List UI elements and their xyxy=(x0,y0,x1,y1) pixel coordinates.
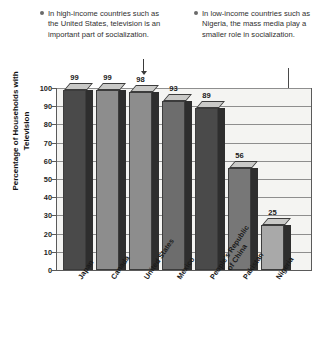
y-axis-tick-mark xyxy=(51,124,56,125)
y-axis-tick-label: 0 xyxy=(30,266,52,275)
bar-value-label: 98 xyxy=(126,75,156,84)
annotation-high-income: In high-income countries such as the Uni… xyxy=(40,9,168,40)
bar-value-label: 56 xyxy=(225,151,255,160)
y-axis-tick-label: 40 xyxy=(30,193,52,202)
bar-people-s-republic-of-china xyxy=(195,108,218,270)
y-axis-tick-mark xyxy=(51,161,56,162)
y-axis-tick-label: 90 xyxy=(30,102,52,111)
annotation-low-income: In low-income countries such as Nigeria,… xyxy=(194,9,318,40)
bar-face xyxy=(63,90,86,270)
y-axis-tick-label: 20 xyxy=(30,230,52,239)
y-axis-tick-mark xyxy=(51,270,56,271)
bar-side xyxy=(119,90,126,270)
bar-face xyxy=(96,90,119,270)
bar-value-label: 25 xyxy=(258,208,288,217)
y-axis-tick-mark xyxy=(51,88,56,89)
y-axis-tick-mark xyxy=(51,234,56,235)
y-axis-tick-mark xyxy=(51,197,56,198)
bar-side xyxy=(185,101,192,270)
y-axis-tick-label: 60 xyxy=(30,157,52,166)
bar-face xyxy=(195,108,218,270)
chart-figure: In high-income countries such as the Uni… xyxy=(0,0,336,362)
bar-value-label: 93 xyxy=(159,84,189,93)
bar-value-label: 99 xyxy=(93,73,123,82)
bar-side xyxy=(218,108,225,270)
y-axis-line xyxy=(56,88,57,271)
y-axis-tick-mark xyxy=(51,143,56,144)
y-axis-tick-mark xyxy=(51,179,56,180)
bullet-icon xyxy=(194,11,198,15)
bar-side xyxy=(152,92,159,270)
y-axis-tick-label: 100 xyxy=(30,84,52,93)
y-axis-tick-label: 70 xyxy=(30,139,52,148)
bar-value-label: 89 xyxy=(192,91,222,100)
y-axis-tick-label: 80 xyxy=(30,120,52,129)
y-axis-tick-mark xyxy=(51,106,56,107)
bar-face xyxy=(129,92,152,270)
y-axis-tick-label: 50 xyxy=(30,175,52,184)
bullet-icon xyxy=(40,11,44,15)
y-axis-tick-labels: 1009080706050403020100 xyxy=(28,88,52,271)
y-axis-tick-label: 30 xyxy=(30,211,52,220)
bar-nigeria xyxy=(261,225,284,271)
bar-japan xyxy=(63,90,86,270)
y-axis-tick-label: 10 xyxy=(30,248,52,257)
annotation-high-income-text: In high-income countries such as the Uni… xyxy=(48,9,168,40)
y-axis-tick-mark xyxy=(51,252,56,253)
annotation-low-income-text: In low-income countries such as Nigeria,… xyxy=(202,9,318,40)
bar-face xyxy=(261,225,284,271)
y-axis-tick-mark xyxy=(51,215,56,216)
bar-united-states xyxy=(129,92,152,270)
bar-side xyxy=(86,90,93,270)
bar-canada xyxy=(96,90,119,270)
bar-value-label: 99 xyxy=(60,73,90,82)
